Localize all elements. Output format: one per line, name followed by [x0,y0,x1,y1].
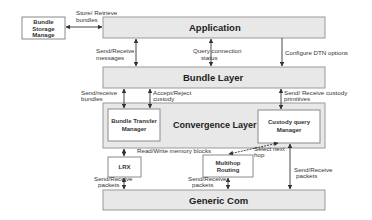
multihop-routing-box: Multihop Routing [203,155,253,177]
custody-query-label-1: Custody query [268,119,311,125]
bundle-transfer-manager-box: Bundle Transfer Manager [108,109,160,141]
send-receive-packets-lrx-label-2: packets [98,181,119,188]
bundle-transfer-label-1: Bundle Transfer [111,118,157,124]
select-next-hop-label-2: hop [254,151,265,158]
custody-query-label-2: Manager [277,127,302,133]
application-box: Application [103,17,325,38]
bundle-transfer-label-2: Manager [122,126,147,132]
bundle-storage-label-3: Manage [32,32,55,38]
send-receive-bundles-label-2: bundles [81,95,103,102]
custody-query-manager-box: Custody query Manager [258,110,320,143]
send-receive-packets-multihop-label-2: packets [192,181,213,188]
bundle-storage-label-1: Bundle [33,19,54,25]
lrx-box: LRX [108,157,141,177]
application-label: Application [189,22,241,33]
bundle-layer-box: Bundle Layer [103,67,325,88]
dtn-architecture-diagram: Bundle Storage Manage Application Bundle… [0,0,372,220]
accept-reject-label-2: custody [153,95,175,102]
configure-dtn-label: Configure DTN options [285,49,348,56]
bundle-storage-label-2: Storage [32,26,55,32]
multihop-label-1: Multihop [216,160,241,166]
query-connection-label-2: status [201,54,218,61]
store-retrieve-label-2: bundles [76,16,98,23]
send-receive-packets-custody-label-2: packets [296,172,317,179]
bundle-storage-manager-box: Bundle Storage Manage [22,17,65,39]
send-receive-custody-label-2: primitives [284,95,310,102]
generic-com-label: Generic Com [189,195,248,206]
lrx-label: LRX [119,164,131,170]
multihop-label-2: Routing [217,167,240,173]
send-receive-messages-label-2: messages [96,54,124,61]
convergence-layer-label: Convergence Layer [173,120,257,130]
read-write-memory-label: Read/Write memory blocks [137,147,211,154]
generic-com-box: Generic Com [103,190,325,210]
bundle-layer-label: Bundle Layer [183,72,243,83]
